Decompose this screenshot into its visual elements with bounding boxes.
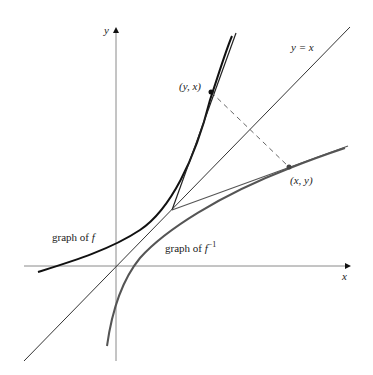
graph-of-f-inverse-label: graph of f−1 bbox=[165, 240, 216, 254]
reflection-segment bbox=[211, 92, 289, 167]
identity-line-label: y = x bbox=[290, 41, 314, 53]
x-axis-label: x bbox=[341, 270, 347, 282]
point-x-y-label: (x, y) bbox=[290, 174, 313, 187]
tangent-to-f-inverse bbox=[172, 146, 348, 210]
point-y-x-label: (y, x) bbox=[179, 80, 201, 93]
identity-line bbox=[24, 27, 350, 361]
graph-of-f-label: graph of f bbox=[52, 231, 97, 243]
inverse-function-diagram: y x y = x (y, x) (x, y) graph of f graph… bbox=[0, 0, 373, 375]
point-x-y bbox=[287, 165, 292, 170]
tangent-to-f bbox=[172, 33, 236, 210]
point-y-x bbox=[209, 90, 214, 95]
y-axis-label: y bbox=[103, 24, 109, 36]
